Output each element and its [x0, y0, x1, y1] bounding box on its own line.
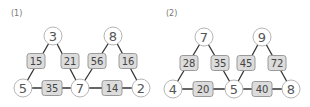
side-box: 16 [119, 53, 138, 69]
top-node: 7 [195, 28, 214, 47]
problem-label: (2) [166, 9, 177, 18]
base-box: 20 [193, 81, 214, 97]
side-box: 28 [180, 55, 199, 71]
base-box: 35 [42, 80, 63, 96]
side-box: 72 [268, 55, 287, 71]
bottom-node: 5 [14, 79, 33, 98]
base-box: 40 [252, 81, 273, 97]
bottom-node: 4 [164, 80, 183, 99]
side-box: 45 [237, 55, 256, 71]
bottom-node: 8 [282, 80, 301, 99]
top-node: 9 [253, 28, 272, 47]
bottom-node: 2 [132, 79, 151, 98]
top-node: 8 [104, 27, 123, 46]
side-box: 21 [61, 53, 80, 69]
side-box: 35 [211, 55, 230, 71]
base-box: 14 [102, 80, 123, 96]
bottom-node: 5 [225, 80, 244, 99]
bottom-node: 7 [71, 79, 90, 98]
side-box: 15 [27, 53, 46, 69]
problem-label: (1) [11, 9, 22, 18]
top-node: 3 [44, 27, 63, 46]
side-box: 56 [88, 53, 107, 69]
